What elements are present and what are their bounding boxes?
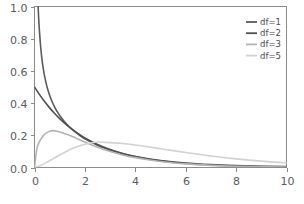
- legend-label-df-2: df=2: [260, 28, 281, 38]
- x-tick-label: 6: [183, 175, 190, 188]
- y-tick-label: 0.2: [10, 130, 28, 143]
- x-tick-label: 2: [82, 175, 89, 188]
- x-tick-label: 10: [281, 175, 295, 188]
- legend-label-df-3: df=3: [260, 39, 281, 49]
- x-tick-label: 8: [233, 175, 240, 188]
- y-tick-label: 0.4: [10, 98, 28, 111]
- chi-squared-pdf-chart: 0.00.20.40.60.81.0 0246810 df=1df=2df=3d…: [0, 0, 304, 204]
- y-tick-label: 0.6: [10, 66, 28, 79]
- y-tick-label: 0.0: [10, 163, 28, 176]
- chart-container: 0.00.20.40.60.81.0 0246810 df=1df=2df=3d…: [0, 0, 304, 204]
- y-tick-label: 1.0: [10, 2, 28, 15]
- legend-label-df-5: df=5: [260, 51, 281, 61]
- legend-label-df-1: df=1: [260, 17, 281, 27]
- x-tick-label: 4: [132, 175, 139, 188]
- y-tick-label: 0.8: [10, 34, 28, 47]
- x-tick-label: 0: [32, 175, 39, 188]
